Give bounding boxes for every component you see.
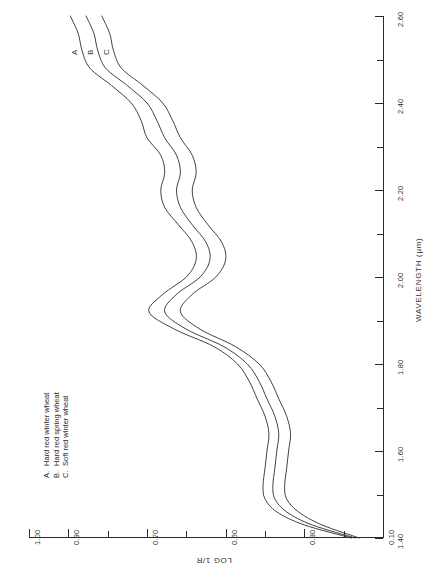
wavelength-axis-title: WAVELENGTH (μm) bbox=[414, 238, 423, 322]
curve-series-b bbox=[86, 16, 355, 538]
log-1r-tick bbox=[68, 529, 69, 537]
wavelength-minor-tick bbox=[377, 321, 383, 322]
wavelength-tick-label: 1.80 bbox=[396, 360, 405, 375]
curve-label-c: C bbox=[102, 49, 111, 55]
log-1r-minor-tick bbox=[265, 531, 266, 537]
chart-page: 1.000.900.700.500.300.10 1.401.601.802.0… bbox=[0, 0, 433, 579]
curve-label-a: A bbox=[70, 49, 79, 54]
curve-label-b: B bbox=[86, 49, 95, 54]
wavelength-tick-label: 2.20 bbox=[396, 186, 405, 201]
wavelength-minor-tick bbox=[377, 234, 383, 235]
log-1r-minor-tick bbox=[186, 531, 187, 537]
log-1r-tick-label: 0.90 bbox=[72, 530, 81, 545]
wavelength-minor-tick bbox=[377, 408, 383, 409]
log-1r-minor-tick bbox=[344, 531, 345, 537]
legend-key-c: C. bbox=[61, 466, 71, 478]
wavelength-tick bbox=[375, 190, 383, 191]
spectra-plot bbox=[0, 0, 433, 579]
wavelength-tick-label: 2.00 bbox=[396, 273, 405, 288]
wavelength-tick-label: 2.40 bbox=[396, 99, 405, 114]
wavelength-tick-label: 1.40 bbox=[396, 534, 405, 549]
log-1r-tick bbox=[226, 529, 227, 537]
log-1r-tick-label: 0.10 bbox=[387, 530, 396, 545]
curve-series-c bbox=[102, 16, 360, 538]
legend-item: A.Hard red winter wheat bbox=[42, 392, 52, 478]
wavelength-tick bbox=[375, 364, 383, 365]
wavelength-tick bbox=[375, 277, 383, 278]
legend-label-c: Soft red winter wheat bbox=[61, 396, 70, 466]
curve-series-a bbox=[70, 16, 351, 538]
log-1r-axis-title: LOG 1/R bbox=[196, 556, 232, 565]
wavelength-tick bbox=[375, 103, 383, 104]
wavelength-tick bbox=[375, 16, 383, 17]
log-1r-tick-label: 1.00 bbox=[33, 530, 42, 545]
log-1r-tick bbox=[29, 529, 30, 537]
legend-key-a: A. bbox=[42, 466, 52, 478]
wavelength-tick bbox=[375, 538, 383, 539]
legend-item: C.Soft red winter wheat bbox=[61, 392, 71, 478]
log-1r-tick bbox=[383, 529, 384, 537]
legend-key-b: B. bbox=[52, 466, 62, 478]
legend-label-b: Hard red spring wheat bbox=[52, 392, 61, 466]
log-1r-tick bbox=[147, 529, 148, 537]
legend-label-a: Hard red winter wheat bbox=[42, 393, 51, 466]
log-1r-tick bbox=[304, 529, 305, 537]
wavelength-tick-label: 1.60 bbox=[396, 447, 405, 462]
log-1r-tick-label: 0.30 bbox=[308, 530, 317, 545]
wavelength-minor-tick bbox=[377, 495, 383, 496]
log-1r-tick-label: 0.70 bbox=[151, 530, 160, 545]
wavelength-minor-tick bbox=[377, 147, 383, 148]
legend-item: B.Hard red spring wheat bbox=[52, 392, 62, 478]
log-1r-minor-tick bbox=[108, 531, 109, 537]
log-1r-tick-label: 0.50 bbox=[230, 530, 239, 545]
wavelength-minor-tick bbox=[377, 60, 383, 61]
wavelength-tick-label: 2.60 bbox=[396, 12, 405, 27]
legend: A.Hard red winter wheat B.Hard red sprin… bbox=[42, 392, 71, 478]
wavelength-tick bbox=[375, 451, 383, 452]
